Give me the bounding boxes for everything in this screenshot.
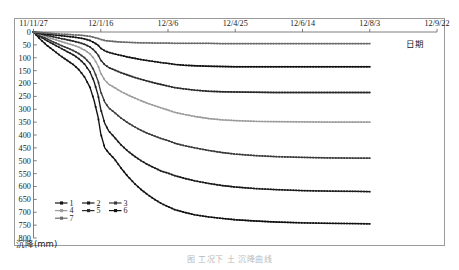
series-marker (132, 154, 134, 156)
series-marker (146, 42, 148, 44)
series-marker (261, 221, 263, 223)
series-marker (196, 214, 198, 216)
series-marker (140, 188, 142, 190)
series-marker (321, 222, 323, 224)
series-marker (106, 40, 108, 42)
series-marker (191, 213, 193, 215)
series-marker (318, 190, 320, 192)
series-marker (216, 151, 218, 153)
series-marker (180, 64, 182, 66)
x-tick-label: 12/6/14 (290, 19, 315, 28)
series-marker (165, 172, 167, 174)
series-marker (72, 54, 74, 56)
series-marker (236, 66, 238, 68)
series-marker (273, 43, 275, 45)
series-marker (55, 52, 57, 54)
series-marker (134, 42, 136, 44)
series-marker (83, 76, 85, 78)
series-marker (126, 56, 128, 58)
series-marker (315, 157, 317, 159)
series-marker (307, 157, 309, 159)
series-marker (168, 42, 170, 44)
series-marker (106, 127, 108, 129)
series-marker (332, 43, 334, 45)
series-marker (276, 121, 278, 123)
series-marker (284, 221, 286, 223)
series-marker (242, 66, 244, 68)
series-marker (321, 121, 323, 123)
series-marker (163, 62, 165, 64)
series-marker (228, 43, 230, 45)
series-marker (287, 222, 289, 224)
series-marker (109, 67, 111, 69)
series-marker (318, 157, 320, 159)
series-marker (267, 188, 269, 190)
series-marker (357, 223, 359, 225)
series-marker (160, 202, 162, 204)
series-marker (307, 66, 309, 68)
series-marker (228, 91, 230, 93)
series-marker (120, 72, 122, 74)
series-marker (41, 40, 43, 42)
series-marker (202, 65, 204, 67)
series-marker (247, 120, 249, 122)
series-marker (242, 43, 244, 45)
series-marker (208, 65, 210, 67)
y-axis-title: 沉降(mm) (16, 239, 57, 249)
series-marker (86, 81, 88, 83)
series-marker (216, 119, 218, 121)
series-marker (196, 116, 198, 118)
series-marker (281, 43, 283, 45)
series-marker (148, 195, 150, 197)
legend-label: 7 (70, 214, 74, 223)
figure-caption: 图 工况下 土 沉降曲线 (0, 252, 459, 268)
y-tick-label: 550 (19, 170, 31, 179)
series-marker (326, 92, 328, 94)
series-marker (250, 66, 252, 68)
series-marker (335, 223, 337, 225)
series-marker (115, 87, 117, 89)
series-marker (83, 38, 85, 40)
x-tick-label: 11/11/27 (19, 19, 48, 28)
series-marker (298, 222, 300, 224)
series-marker (256, 121, 258, 123)
series-marker (185, 114, 187, 116)
series-marker (151, 197, 153, 199)
series-marker (140, 42, 142, 44)
series-marker (321, 190, 323, 192)
series-marker (86, 51, 88, 53)
legend-label: 5 (97, 206, 101, 215)
series-marker (188, 146, 190, 148)
series-marker (242, 187, 244, 189)
series-marker (256, 66, 258, 68)
series-marker (126, 74, 128, 76)
series-marker (171, 86, 173, 88)
series-marker (72, 64, 74, 66)
series-marker (287, 189, 289, 191)
series-marker (47, 38, 49, 40)
series-marker (233, 186, 235, 188)
series-line (34, 32, 370, 44)
series-marker (233, 66, 235, 68)
series-line (34, 32, 370, 93)
series-marker (86, 60, 88, 62)
series-marker (222, 185, 224, 187)
series-marker (230, 43, 232, 45)
series-marker (174, 87, 176, 89)
series-marker (134, 77, 136, 79)
series-marker (78, 34, 80, 36)
series-marker (230, 153, 232, 155)
series-marker (109, 153, 111, 155)
series-marker (75, 34, 77, 36)
series-marker (230, 120, 232, 122)
series-marker (250, 43, 252, 45)
series-marker (355, 191, 357, 193)
series-marker (216, 43, 218, 45)
series-marker (278, 121, 280, 123)
series-marker (355, 92, 357, 94)
series-marker (160, 62, 162, 64)
series-marker (343, 223, 345, 225)
series-marker (174, 42, 176, 44)
series-marker (143, 101, 145, 103)
series-marker (157, 83, 159, 85)
